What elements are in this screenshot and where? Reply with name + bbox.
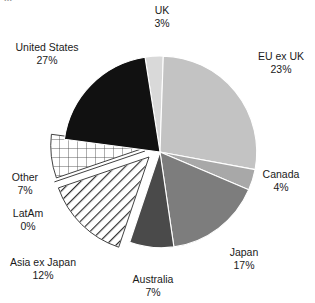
pie-chart-figure: ...	[0, 0, 315, 303]
pie-label-canada: Canada 4%	[252, 168, 310, 193]
pie-label-latam-name: LatAm	[13, 207, 43, 219]
pie-label-japan-value: 17%	[218, 259, 270, 272]
pie-label-japan: Japan 17%	[218, 246, 270, 271]
pie-label-united-states: United States 27%	[4, 41, 90, 66]
pie-label-eu-ex-uk-value: 23%	[248, 63, 314, 76]
pie-label-australia-name: Australia	[133, 273, 174, 285]
pie-label-other-value: 7%	[4, 184, 46, 197]
pie-label-japan-name: Japan	[230, 246, 259, 258]
pie-slice-eu-ex-uk[interactable]	[160, 56, 257, 170]
pie-label-asia-ex-japan: Asia ex Japan 12%	[2, 256, 84, 281]
pie-slices	[51, 56, 257, 248]
pie-label-uk-value: 3%	[140, 17, 184, 30]
pie-label-asia-ex-japan-name: Asia ex Japan	[10, 256, 76, 268]
pie-label-eu-ex-uk-name: EU ex UK	[258, 50, 304, 62]
pie-label-united-states-value: 27%	[4, 54, 90, 67]
pie-slice-united-states[interactable]	[64, 57, 160, 152]
pie-label-other: Other 7%	[4, 171, 46, 196]
pie-label-canada-value: 4%	[252, 181, 310, 194]
pie-label-asia-ex-japan-value: 12%	[2, 269, 84, 282]
pie-label-eu-ex-uk: EU ex UK 23%	[248, 50, 314, 75]
pie-label-australia: Australia 7%	[118, 273, 188, 298]
pie-label-uk-name: UK	[155, 4, 170, 16]
pie-label-other-name: Other	[12, 171, 38, 183]
pie-label-uk: UK 3%	[140, 4, 184, 29]
pie-label-latam: LatAm 0%	[4, 207, 52, 232]
pie-label-canada-name: Canada	[263, 168, 300, 180]
pie-label-united-states-name: United States	[15, 41, 78, 53]
pie-label-australia-value: 7%	[118, 286, 188, 299]
pie-label-latam-value: 0%	[4, 220, 52, 233]
